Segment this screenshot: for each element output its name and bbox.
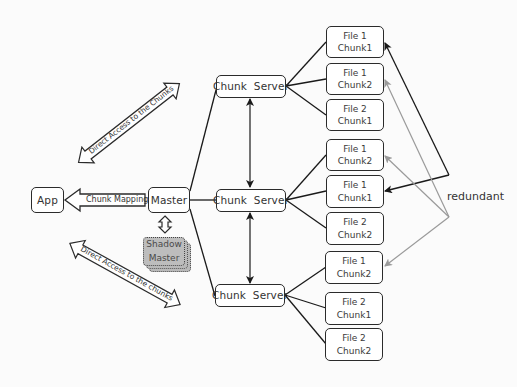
chunk-box[interactable]: File 1 Chunk2 bbox=[325, 251, 383, 284]
chunk-file: File 2 bbox=[343, 103, 367, 115]
master-node[interactable]: Master bbox=[148, 187, 190, 213]
redundant-primary-links bbox=[385, 43, 449, 191]
chunk-id: Chunk2 bbox=[338, 79, 372, 91]
chunk-box[interactable]: File 2 Chunk2 bbox=[325, 328, 383, 361]
chunk-id: Chunk2 bbox=[338, 155, 372, 167]
chunk-id: Chunk1 bbox=[338, 115, 372, 127]
chunk-box[interactable]: File 2 Chunk1 bbox=[326, 99, 384, 131]
chunk-box[interactable]: File 1 Chunk2 bbox=[326, 139, 384, 171]
chunk-id: Chunk2 bbox=[337, 268, 371, 280]
chunk-id: Chunk1 bbox=[337, 309, 371, 321]
chunk-mappings-label: Chunk Mappings bbox=[86, 195, 152, 204]
app-node[interactable]: App bbox=[31, 187, 64, 213]
chunk-file: File 1 bbox=[343, 179, 367, 191]
chunk-id: Chunk2 bbox=[338, 229, 372, 241]
redundant-label: redundant bbox=[447, 190, 504, 203]
chunk-server-label: Chunk Server bbox=[213, 79, 289, 93]
chunk-file: File 1 bbox=[343, 143, 367, 155]
chunk-id: Chunk1 bbox=[338, 192, 372, 204]
app-label: App bbox=[37, 193, 58, 207]
chunk-box[interactable]: File 1 Chunk1 bbox=[326, 175, 384, 208]
chunk-box[interactable]: File 2 Chunk2 bbox=[326, 212, 384, 245]
chunk-box[interactable]: File 2 Chunk1 bbox=[325, 292, 383, 325]
chunk-file: File 1 bbox=[342, 255, 366, 267]
master-to-server-links bbox=[190, 90, 216, 296]
chunk-server-1[interactable]: Chunk Server bbox=[216, 75, 286, 98]
chunk-file: File 1 bbox=[343, 67, 367, 79]
chunk-file: File 2 bbox=[342, 296, 366, 308]
master-shadow-sync-arrow bbox=[159, 216, 171, 233]
master-label: Master bbox=[151, 193, 187, 207]
chunk-id: Chunk2 bbox=[337, 345, 371, 357]
shadow-master-label-line2: Master bbox=[149, 252, 180, 265]
chunk-server-label: Chunk Server bbox=[213, 193, 289, 207]
chunk-server-label: Chunk Server bbox=[212, 288, 288, 302]
shadow-master-label-line1: Shadow bbox=[146, 238, 182, 251]
chunk-box[interactable]: File 1 Chunk2 bbox=[326, 63, 384, 95]
server-to-chunk-links bbox=[285, 42, 326, 344]
chunk-box[interactable]: File 1 Chunk1 bbox=[326, 26, 384, 58]
architecture-diagram: Direct Access to the Chunks Direct Acces… bbox=[0, 0, 517, 387]
chunk-file: File 1 bbox=[343, 30, 367, 42]
chunk-server-2[interactable]: Chunk Server bbox=[216, 189, 286, 212]
chunk-server-3[interactable]: Chunk Server bbox=[215, 284, 285, 307]
shadow-master-node[interactable]: Shadow Master bbox=[143, 237, 185, 266]
chunk-id: Chunk1 bbox=[338, 42, 372, 54]
chunk-file: File 2 bbox=[342, 332, 366, 344]
chunk-file: File 2 bbox=[343, 216, 367, 228]
